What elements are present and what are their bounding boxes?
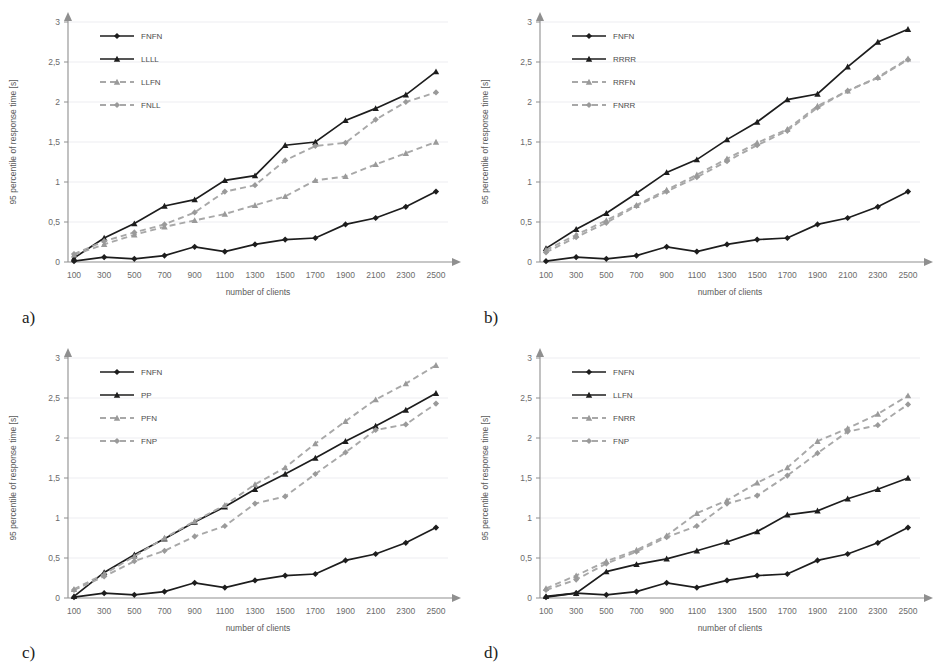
x-tick-label: 700 [629,270,643,280]
data-point-marker [664,580,670,586]
y-tick-label: 1,5 [48,473,60,483]
legend-label: FNRR [613,101,635,110]
x-tick-label: 1700 [778,606,797,616]
x-tick-label: 2300 [868,270,887,280]
y-tick-label: 2 [527,433,532,443]
data-point-marker [222,523,228,529]
data-point-marker [875,540,881,546]
chart-panel-c: 00,511,522,53100300500700900110013001500… [0,336,472,671]
x-tick-label: 1300 [246,270,265,280]
y-axis-title: 95 percentile of response time [s] [8,79,18,204]
x-tick-label: 100 [67,606,81,616]
series-line [546,396,908,589]
series-PFN [71,362,439,592]
data-point-marker [586,369,592,375]
data-point-marker [433,362,439,368]
data-point-marker [754,237,760,243]
data-point-marker [845,551,851,557]
chart-panel-d: 00,511,522,53100300500700900110013001500… [472,336,944,671]
data-point-marker [905,26,911,32]
data-point-marker [131,592,137,598]
data-point-marker [875,422,881,428]
data-point-marker [875,204,881,210]
legend-label: LLFN [141,78,161,87]
series-FNP [543,401,911,593]
legend-label: PP [141,391,152,400]
data-point-marker [905,525,911,531]
data-point-marker [312,571,318,577]
x-tick-label: 1700 [778,270,797,280]
data-point-marker [433,89,439,95]
x-tick-label: 1500 [748,606,767,616]
series-line [74,365,436,589]
x-tick-label: 1300 [718,270,737,280]
x-tick-label: 2100 [838,270,857,280]
y-tick-label: 3 [55,17,60,27]
data-point-marker [403,204,409,210]
y-tick-label: 1 [55,177,60,187]
series-FNRR [543,392,911,591]
data-point-marker [905,189,911,195]
x-tick-label: 500 [127,270,141,280]
series-line [546,59,908,250]
x-tick-label: 2500 [899,606,918,616]
x-tick-label: 1100 [688,270,707,280]
data-point-marker [754,573,760,579]
x-axis-title: number of clients [698,623,763,633]
x-axis-arrow-icon [924,258,933,266]
x-tick-label: 2500 [427,606,446,616]
series-FNP [71,401,439,594]
y-tick-label: 2,5 [520,57,532,67]
panel-label-c: c) [22,643,35,663]
x-tick-label: 700 [629,606,643,616]
chart-a-plot: 00,511,522,53100300500700900110013001500… [0,0,472,300]
legend-label: FNFN [613,368,635,377]
chart-svg: 00,511,522,53100300500700900110013001500… [472,336,944,636]
data-point-marker [282,237,288,243]
x-tick-label: 300 [569,606,583,616]
y-tick-label: 1,5 [520,473,532,483]
data-point-marker [754,528,760,534]
data-point-marker [373,551,379,557]
data-point-marker [192,533,198,539]
x-tick-label: 300 [569,270,583,280]
panel-label-a: a) [22,308,35,328]
y-tick-label: 1 [527,177,532,187]
panel-label-d: d) [484,643,498,663]
data-point-marker [586,438,592,444]
series-LLFN [71,139,439,258]
data-point-marker [252,241,258,247]
x-tick-label: 500 [599,270,613,280]
y-tick-label: 0 [55,593,60,603]
data-point-marker [603,592,609,598]
data-point-marker [603,256,609,262]
chart-legend: FNFNRRRRRRFNFNRR [572,32,636,110]
data-point-marker [101,590,107,596]
x-tick-label: 100 [539,270,553,280]
x-axis-arrow-icon [452,594,461,602]
data-point-marker [222,585,228,591]
y-axis-title: 95 percentile of response time [s] [480,415,490,540]
series-line [74,393,436,596]
legend-label: FNP [613,437,629,446]
data-point-marker [905,401,911,407]
x-tick-label: 1300 [718,606,737,616]
legend-label: LLLL [141,55,159,64]
x-axis-arrow-icon [452,258,461,266]
x-tick-label: 2100 [366,270,385,280]
gridlines [68,22,448,222]
data-point-marker [372,396,378,402]
y-tick-label: 0,5 [520,553,532,563]
data-point-marker [282,573,288,579]
data-point-marker [403,421,409,427]
series-PP [71,390,439,599]
x-tick-label: 500 [599,606,613,616]
x-tick-label: 1500 [748,270,767,280]
data-point-marker [586,33,592,39]
data-point-marker [312,455,318,461]
data-point-marker [875,75,881,81]
data-point-marker [403,540,409,546]
series-line [74,142,436,255]
y-tick-label: 2 [55,97,60,107]
y-tick-label: 0,5 [48,217,60,227]
